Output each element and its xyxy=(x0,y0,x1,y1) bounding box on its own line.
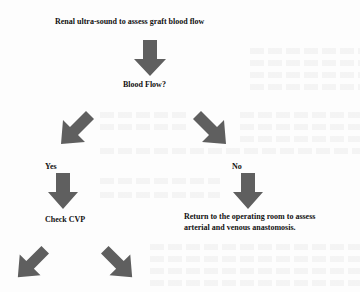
arrow-down-left-icon xyxy=(58,111,94,147)
node-return-to-or-line1: Return to the operating room to assess xyxy=(184,212,315,222)
ghost-line xyxy=(100,112,190,118)
ghost-line xyxy=(150,244,360,250)
ghost-line xyxy=(150,268,360,274)
arrow-down-icon xyxy=(134,40,166,76)
node-renal-ultrasound: Renal ultra-sound to assess graft blood … xyxy=(55,17,204,27)
arrow-down-left-icon xyxy=(15,246,49,280)
branch-label-yes: Yes xyxy=(45,162,57,172)
node-return-to-or-line2: arterial and venous anastomosis. xyxy=(184,223,296,233)
ghost-line xyxy=(250,48,360,54)
ghost-line xyxy=(100,192,220,198)
node-blood-flow-decision: Blood Flow? xyxy=(123,80,166,90)
ghost-line xyxy=(150,280,360,286)
ghost-line xyxy=(250,84,360,90)
branch-label-no: No xyxy=(232,162,242,172)
ghost-line xyxy=(100,148,360,154)
arrow-down-icon xyxy=(48,173,78,209)
ghost-line xyxy=(250,72,360,78)
ghost-line xyxy=(240,112,360,118)
arrow-down-right-icon xyxy=(193,111,229,147)
arrow-down-icon xyxy=(233,173,263,209)
node-check-cvp: Check CVP xyxy=(45,215,85,225)
arrow-down-right-icon xyxy=(101,246,135,280)
ghost-line xyxy=(150,256,360,262)
ghost-line xyxy=(240,136,360,142)
ghost-line xyxy=(240,124,360,130)
ghost-line xyxy=(100,124,190,130)
ghost-line xyxy=(250,60,360,66)
ghost-line xyxy=(100,178,220,184)
flowchart-canvas: Renal ultra-sound to assess graft blood … xyxy=(0,0,360,292)
